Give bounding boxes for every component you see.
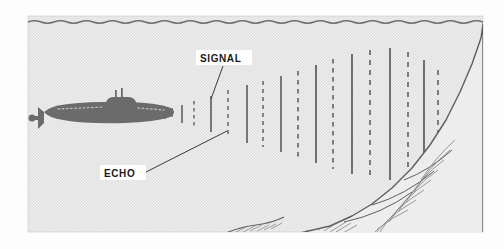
periscope-mast-1 — [115, 90, 117, 98]
sonar-diagram-figure: SIGNAL ECHO — [0, 0, 504, 249]
label-signal: SIGNAL — [196, 50, 252, 65]
echo-label-text: ECHO — [104, 168, 135, 179]
signal-label-text: SIGNAL — [200, 53, 241, 64]
periscope-mast-2 — [121, 88, 123, 98]
submarine-propeller — [29, 115, 36, 122]
submarine-conning-tower — [106, 97, 136, 107]
label-echo: ECHO — [100, 165, 146, 180]
diagram-canvas: SIGNAL ECHO — [0, 0, 504, 249]
